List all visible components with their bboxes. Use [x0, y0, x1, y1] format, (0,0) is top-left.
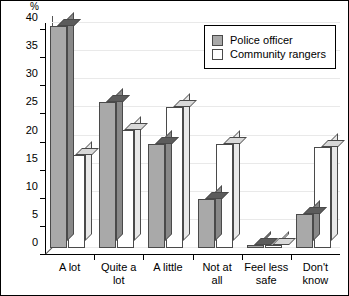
- bar-face: [265, 245, 282, 248]
- x-axis-category-label: Not at all: [193, 261, 242, 286]
- y-axis-tick: [40, 226, 46, 227]
- legend-item[interactable]: Police officer: [212, 34, 328, 46]
- bar-police-officer: [296, 214, 313, 248]
- x-axis-tick: [242, 254, 243, 260]
- x-axis-category-label: A little: [143, 261, 192, 274]
- bar-face: [247, 245, 264, 248]
- gridline: [52, 22, 340, 23]
- bar-side: [116, 88, 123, 241]
- bar-face: [50, 26, 67, 248]
- x-axis-category-label: Quite a lot: [94, 261, 143, 286]
- bar-side: [165, 130, 172, 241]
- y-axis-tick-label: 40: [26, 11, 38, 23]
- y-axis-tick: [40, 85, 46, 86]
- legend-label: Community rangers: [230, 48, 326, 60]
- x-axis-tick: [94, 254, 95, 260]
- bar-side: [331, 133, 338, 241]
- bar-side: [67, 12, 74, 241]
- bar-police-officer: [50, 26, 67, 248]
- y-axis-tick: [40, 254, 46, 255]
- y-axis-tick-label: 0: [32, 236, 38, 248]
- bar-police-officer: [198, 199, 215, 248]
- bar-top: [106, 95, 130, 102]
- bar-face: [198, 199, 215, 248]
- y-axis-tick-label: 35: [26, 39, 38, 51]
- y-axis-tick: [40, 57, 46, 58]
- y-axis-tick-label: 25: [26, 95, 38, 107]
- legend-swatch-rangers: [212, 49, 223, 60]
- bar-face: [148, 144, 165, 248]
- y-axis-tick-label: 30: [26, 67, 38, 79]
- bar-community-rangers: [265, 245, 282, 248]
- bar-side: [183, 93, 190, 241]
- bar-side: [233, 130, 240, 241]
- bar-top: [75, 148, 99, 155]
- gridline: [52, 106, 340, 107]
- bar-police-officer: [99, 102, 116, 248]
- x-axis-tick: [193, 254, 194, 260]
- bar-side: [85, 141, 92, 241]
- bar-police-officer: [148, 144, 165, 248]
- bar-police-officer: [247, 245, 264, 248]
- x-axis-category-label: A lot: [45, 261, 94, 274]
- y-axis-tick: [40, 142, 46, 143]
- bar-face: [99, 102, 116, 248]
- x-axis-tick: [143, 254, 144, 260]
- gridline: [52, 135, 340, 136]
- bar-top: [57, 19, 81, 26]
- chart-figure: % 0510152025303540 A lotQuite a lotA lit…: [0, 0, 349, 296]
- bar-top: [223, 137, 247, 144]
- legend-swatch-police: [212, 35, 223, 46]
- y-axis-tick: [40, 198, 46, 199]
- gridline: [52, 191, 340, 192]
- legend-label: Police officer: [230, 34, 293, 46]
- bar-side: [134, 116, 141, 241]
- bar-face: [296, 214, 313, 248]
- bar-top: [321, 140, 345, 147]
- gridline: [52, 78, 340, 79]
- bar-top: [124, 123, 148, 130]
- x-axis-tick: [291, 254, 292, 260]
- y-axis-tick-label: 10: [26, 180, 38, 192]
- chart-legend: Police officerCommunity rangers: [204, 25, 336, 69]
- y-axis-tick-label: 15: [26, 152, 38, 164]
- y-axis-tick: [40, 170, 46, 171]
- x-axis-category-label: Feel less safe: [242, 261, 291, 286]
- y-axis-tick-label: 5: [32, 208, 38, 220]
- legend-item[interactable]: Community rangers: [212, 48, 328, 60]
- y-axis-tick: [40, 29, 46, 30]
- x-axis-category-label: Don't know: [291, 261, 340, 286]
- gridline: [52, 163, 340, 164]
- y-axis-tick-label: 20: [26, 124, 38, 136]
- y-axis-tick: [40, 113, 46, 114]
